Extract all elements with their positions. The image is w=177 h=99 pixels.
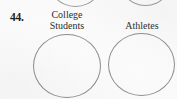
set-label-college-students: College Students [38,10,96,31]
exercise-number: 44. [10,11,24,23]
partial-circle-above-right [117,0,174,6]
set-label-college-students-line1: College [38,10,96,21]
partial-circle-above-left [46,0,105,7]
set-label-athletes: Athletes [112,21,172,32]
set-label-college-students-line2: Students [38,21,96,32]
set-circle-athletes [108,33,175,96]
set-label-athletes-line1: Athletes [112,21,172,32]
exercise-page: 44. College Students Athletes [0,0,177,99]
set-circle-college-students [33,34,101,98]
